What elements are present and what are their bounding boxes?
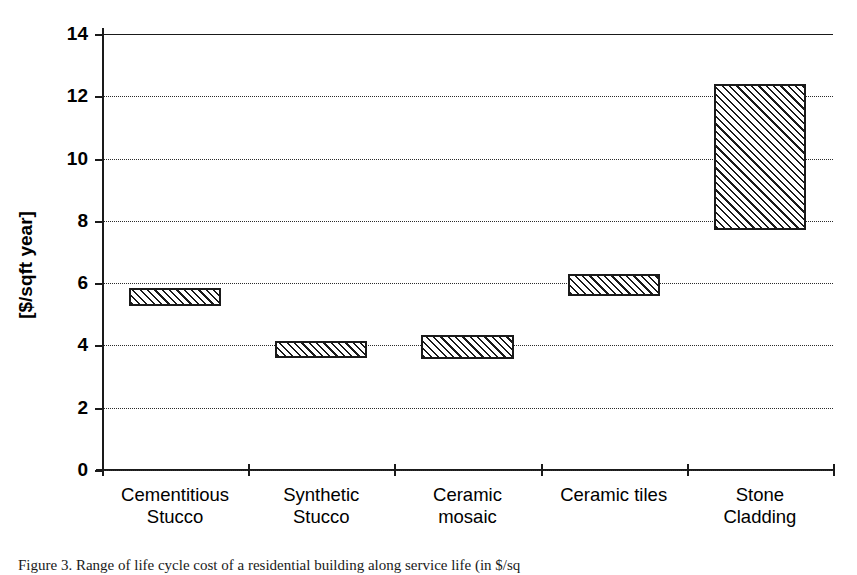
x-tick-2 bbox=[394, 464, 396, 476]
figure-caption: Figure 3. Range of life cycle cost of a … bbox=[18, 556, 848, 575]
x-tick-4 bbox=[687, 464, 689, 476]
x-category-label-line: Cementitious bbox=[102, 484, 248, 506]
gridline-2 bbox=[102, 408, 833, 409]
x-tick-3 bbox=[541, 464, 543, 476]
x-category-label-line: Ceramic bbox=[394, 484, 540, 506]
x-category-label-line: Ceramic tiles bbox=[541, 484, 687, 506]
x-tick-5 bbox=[833, 464, 835, 476]
gridline-6 bbox=[102, 283, 833, 284]
x-category-label-line: Stucco bbox=[248, 506, 394, 528]
x-category-label: CementitiousStucco bbox=[102, 484, 248, 528]
range-box bbox=[421, 335, 513, 360]
x-tick-1 bbox=[248, 464, 250, 476]
y-tick-8 bbox=[95, 221, 104, 223]
gridline-0 bbox=[102, 470, 833, 471]
x-category-label: Ceramic tiles bbox=[541, 484, 687, 506]
y-tick-label-6: 6 bbox=[0, 273, 88, 292]
x-category-label-line: Stucco bbox=[102, 506, 248, 528]
y-tick-label-4: 4 bbox=[0, 335, 88, 354]
range-box bbox=[714, 84, 806, 230]
x-tick-0 bbox=[102, 464, 104, 476]
y-tick-label-0: 0 bbox=[0, 460, 88, 479]
x-category-label: StoneCladding bbox=[687, 484, 833, 528]
x-category-label: SyntheticStucco bbox=[248, 484, 394, 528]
y-tick-10 bbox=[95, 159, 104, 161]
y-tick-12 bbox=[95, 96, 104, 98]
y-tick-label-12: 12 bbox=[0, 86, 88, 105]
x-category-label: Ceramicmosaic bbox=[394, 484, 540, 528]
x-category-label-line: mosaic bbox=[394, 506, 540, 528]
y-tick-label-8: 8 bbox=[0, 211, 88, 230]
y-tick-14 bbox=[95, 34, 104, 36]
x-category-label-line: Cladding bbox=[687, 506, 833, 528]
y-tick-label-10: 10 bbox=[0, 149, 88, 168]
range-box bbox=[568, 274, 660, 296]
gridline-14 bbox=[102, 34, 833, 35]
y-tick-label-14: 14 bbox=[0, 24, 88, 43]
range-box bbox=[275, 341, 367, 358]
y-tick-label-2: 2 bbox=[0, 398, 88, 417]
range-bar-chart-figure: [$/sqft year] 02468101214 CementitiousSt… bbox=[0, 0, 857, 575]
y-tick-6 bbox=[95, 283, 104, 285]
x-category-label-line: Stone bbox=[687, 484, 833, 506]
y-tick-2 bbox=[95, 408, 104, 410]
range-box bbox=[129, 288, 221, 307]
plot-area bbox=[102, 34, 833, 470]
x-category-label-line: Synthetic bbox=[248, 484, 394, 506]
y-tick-4 bbox=[95, 345, 104, 347]
